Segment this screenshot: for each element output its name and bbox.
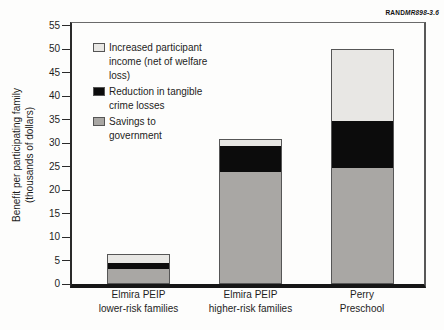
bar-segment-savings-to-government: [108, 269, 169, 283]
y-tick-mark: [62, 25, 70, 26]
rand-brand-text: RAND: [385, 9, 405, 16]
y-tick-label: 10: [34, 232, 60, 242]
y-tick-label: 50: [34, 44, 60, 54]
legend: Increased participantincome (net of welf…: [93, 41, 207, 145]
legend-swatch: [93, 117, 105, 126]
y-tick-mark: [62, 190, 70, 191]
y-tick-label: 35: [34, 115, 60, 125]
legend-item-savings-to: Savings togovernment: [93, 115, 207, 143]
y-axis-title: Benefit per participating family (thousa…: [10, 55, 38, 255]
y-tick-mark: [62, 72, 70, 73]
y-tick-label: 40: [34, 91, 60, 101]
bar-segment-reduction-in-tangible-crime-losses: [332, 121, 393, 168]
y-tick-mark: [62, 119, 70, 120]
y-tick-mark: [62, 49, 70, 50]
x-tick-label-perry-preschool: PerryPreschool: [287, 288, 437, 316]
y-tick-label: 45: [34, 68, 60, 78]
bar-segment-savings-to-government: [332, 168, 393, 283]
y-tick-mark: [62, 213, 70, 214]
legend-label-line: loss): [109, 69, 207, 83]
y-tick-label: 5: [34, 256, 60, 266]
y-tick-mark: [62, 284, 70, 285]
legend-label-line: Reduction in tangible: [109, 85, 202, 99]
y-axis-title-line2: (thousands of dollars): [23, 55, 36, 255]
y-tick-mark: [62, 166, 70, 167]
y-tick-label: 20: [34, 185, 60, 195]
legend-label-line: crime losses: [109, 99, 202, 113]
x-tick-label-line: Preschool: [287, 302, 437, 316]
legend-label: Increased participantincome (net of welf…: [109, 41, 207, 83]
legend-item-increased-participant: Increased participantincome (net of welf…: [93, 41, 207, 83]
legend-swatch: [93, 43, 105, 52]
legend-label: Savings togovernment: [109, 115, 162, 143]
bar-perry-preschool: [331, 49, 394, 284]
legend-label-line: government: [109, 129, 162, 143]
bar-segment-increased-participant-income-net-of-welfare-loss: [332, 50, 393, 121]
y-tick-mark: [62, 237, 70, 238]
bar-segment-increased-participant-income-net-of-welfare-loss: [108, 255, 169, 263]
figure-source-label: RANDMR898-3.6: [385, 9, 439, 16]
y-tick-label: 0: [34, 279, 60, 289]
bar-elmira-peip-lower-risk-families: [107, 254, 170, 284]
legend-swatch: [93, 87, 105, 96]
legend-label-line: income (net of welfare: [109, 55, 207, 69]
bar-segment-savings-to-government: [220, 172, 281, 283]
y-tick-mark: [62, 260, 70, 261]
y-tick-label: 30: [34, 138, 60, 148]
legend-label: Reduction in tangiblecrime losses: [109, 85, 202, 113]
y-tick-mark: [62, 143, 70, 144]
y-axis-title-line1: Benefit per participating family: [10, 55, 23, 255]
legend-label-line: Increased participant: [109, 41, 207, 55]
y-tick-label: 25: [34, 162, 60, 172]
y-tick-label: 55: [34, 21, 60, 31]
y-tick-mark: [62, 96, 70, 97]
y-tick-label: 15: [34, 209, 60, 219]
bar-segment-reduction-in-tangible-crime-losses: [220, 146, 281, 172]
legend-label-line: Savings to: [109, 115, 162, 129]
legend-item-reduction-in-tangible: Reduction in tangiblecrime losses: [93, 85, 207, 113]
figure: RANDMR898-3.6 Benefit per participating …: [0, 0, 444, 330]
bar-elmira-peip-higher-risk-families: [219, 139, 282, 284]
x-tick-label-line: Perry: [287, 288, 437, 302]
figure-id-text: MR898-3.6: [405, 9, 439, 16]
